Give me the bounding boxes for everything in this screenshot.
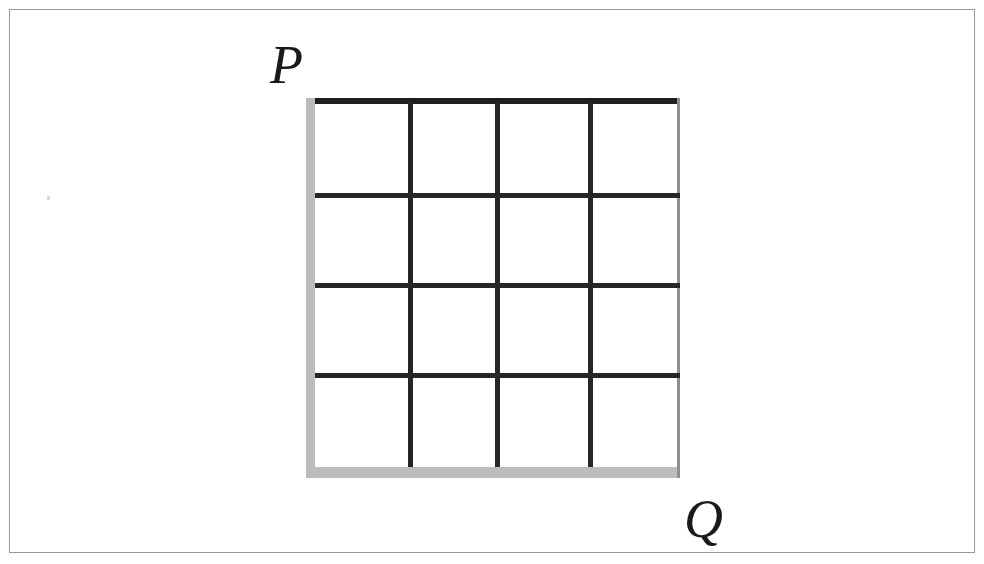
vertex-label-p: P	[270, 38, 303, 92]
vertex-label-q: Q	[684, 492, 723, 546]
grid-vertical-rule-2	[495, 102, 500, 467]
grid-edge-right	[677, 98, 680, 478]
grid-vertical-rule-1	[408, 102, 413, 467]
grid-edge-top	[306, 98, 680, 104]
grid-edge-left	[306, 98, 315, 478]
scan-artifact-speck	[47, 196, 50, 200]
grid-vertical-rule-3	[588, 102, 593, 467]
grid-box	[306, 98, 680, 478]
page-frame: P Q	[9, 9, 975, 553]
grid-edge-bottom	[306, 467, 680, 478]
lattice-diagram: P Q	[266, 30, 746, 550]
